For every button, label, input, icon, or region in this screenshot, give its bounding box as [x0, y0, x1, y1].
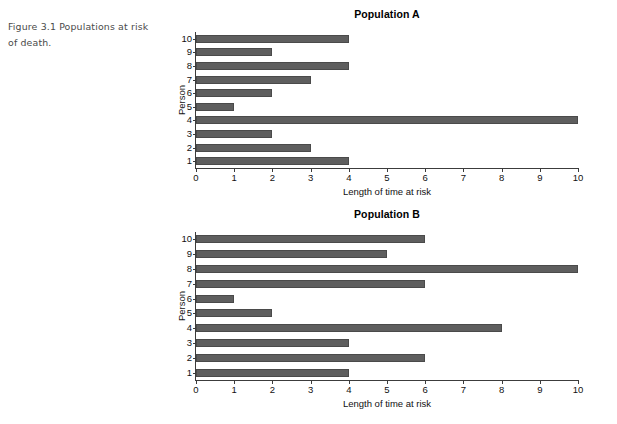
x-tick-label: 2	[260, 173, 284, 183]
bar	[196, 309, 272, 317]
x-tick-label: 8	[490, 173, 514, 183]
bar	[196, 295, 234, 303]
bar	[196, 48, 272, 56]
y-tick-label: 5	[162, 102, 192, 112]
bar	[196, 157, 349, 165]
plot-area-population-b: Person Length of time at risk 1234567891…	[195, 232, 578, 381]
y-tick-mark	[193, 39, 196, 40]
bar	[196, 339, 349, 347]
y-tick-mark	[193, 161, 196, 162]
x-axis-title-population-a: Length of time at risk	[196, 186, 578, 197]
bar-row: 6	[196, 87, 578, 99]
y-tick-label: 10	[162, 34, 192, 44]
x-tick-label: 0	[184, 173, 208, 183]
y-tick-mark	[193, 269, 196, 270]
bar-row: 4	[196, 322, 578, 334]
x-tick-label: 7	[451, 385, 475, 395]
bar	[196, 103, 234, 111]
y-tick-label: 5	[162, 308, 192, 318]
y-tick-mark	[193, 66, 196, 67]
x-tick-label: 8	[490, 385, 514, 395]
plot-area-population-a: Person Length of time at risk 1234567891…	[195, 32, 578, 169]
y-tick-label: 4	[162, 115, 192, 125]
bar-row: 8	[196, 263, 578, 275]
y-tick-label: 7	[162, 75, 192, 85]
x-tick-label: 2	[260, 385, 284, 395]
y-tick-mark	[193, 254, 196, 255]
bar-row: 10	[196, 233, 578, 245]
y-tick-label: 7	[162, 279, 192, 289]
bar-row: 9	[196, 46, 578, 58]
y-tick-mark	[193, 80, 196, 81]
chart-population-b: Population B Person Length of time at ri…	[160, 208, 610, 420]
bar-row: 8	[196, 60, 578, 72]
bar	[196, 354, 425, 362]
y-tick-mark	[193, 358, 196, 359]
y-tick-mark	[193, 299, 196, 300]
bar	[196, 62, 349, 70]
x-tick-label: 1	[222, 385, 246, 395]
bar	[196, 250, 387, 258]
y-tick-mark	[193, 93, 196, 94]
bar	[196, 265, 578, 273]
y-tick-label: 8	[162, 264, 192, 274]
y-tick-label: 6	[162, 294, 192, 304]
y-tick-label: 1	[162, 156, 192, 166]
bar-row: 5	[196, 101, 578, 113]
bar-row: 9	[196, 248, 578, 260]
y-tick-label: 1	[162, 368, 192, 378]
x-tick-label: 9	[528, 385, 552, 395]
y-tick-label: 9	[162, 249, 192, 259]
bar	[196, 89, 272, 97]
bar-row: 2	[196, 142, 578, 154]
y-tick-label: 4	[162, 323, 192, 333]
chart-title-population-a: Population A	[160, 8, 612, 20]
x-tick-label: 10	[566, 173, 590, 183]
bar-row: 5	[196, 307, 578, 319]
y-tick-label: 8	[162, 61, 192, 71]
bar	[196, 76, 311, 84]
bar-row: 3	[196, 128, 578, 140]
y-tick-mark	[193, 343, 196, 344]
y-tick-label: 10	[162, 234, 192, 244]
x-tick-label: 5	[375, 173, 399, 183]
x-tick-label: 6	[413, 385, 437, 395]
bar	[196, 35, 349, 43]
y-tick-mark	[193, 120, 196, 121]
bar	[196, 235, 425, 243]
x-tick-label: 5	[375, 385, 399, 395]
bar	[196, 369, 349, 377]
x-tick-label: 3	[299, 385, 323, 395]
bar-row: 2	[196, 352, 578, 364]
x-tick-label: 4	[337, 385, 361, 395]
bar	[196, 116, 578, 124]
bar-row: 7	[196, 74, 578, 86]
y-tick-label: 3	[162, 338, 192, 348]
x-tick-label: 7	[451, 173, 475, 183]
y-tick-mark	[193, 328, 196, 329]
y-tick-mark	[193, 313, 196, 314]
bar	[196, 130, 272, 138]
x-tick-label: 0	[184, 385, 208, 395]
bar-row: 4	[196, 114, 578, 126]
bar-row: 6	[196, 293, 578, 305]
y-tick-label: 6	[162, 88, 192, 98]
x-tick-label: 10	[566, 385, 590, 395]
x-tick-label: 4	[337, 173, 361, 183]
bar	[196, 144, 311, 152]
x-tick-label: 1	[222, 173, 246, 183]
x-tick-label: 9	[528, 173, 552, 183]
bar-row: 3	[196, 337, 578, 349]
y-tick-mark	[193, 107, 196, 108]
bar	[196, 324, 502, 332]
figure-caption: Figure 3.1 Populations at risk of death.	[8, 19, 160, 50]
bar-row: 1	[196, 367, 578, 379]
chart-title-population-b: Population B	[160, 208, 612, 220]
y-tick-mark	[193, 373, 196, 374]
y-tick-label: 9	[162, 47, 192, 57]
bar	[196, 280, 425, 288]
y-tick-mark	[193, 134, 196, 135]
bar-row: 1	[196, 155, 578, 167]
y-tick-label: 3	[162, 129, 192, 139]
bar-row: 7	[196, 278, 578, 290]
